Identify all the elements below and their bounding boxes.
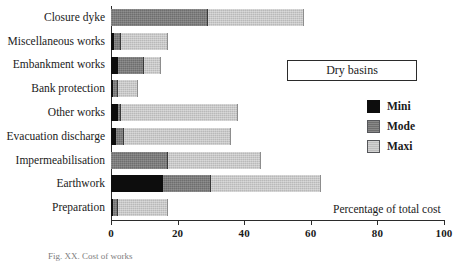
bar-segment-maxi: [121, 104, 238, 121]
legend-item-label: Maxi: [387, 140, 413, 152]
chart-title-label: Dry basins: [326, 63, 378, 78]
stacked-bar: [111, 175, 321, 192]
bar-segment-maxi: [208, 9, 305, 26]
stacked-bar: [111, 152, 261, 169]
category-label: Impermeabilisation: [16, 155, 105, 167]
bar-segment-maxi: [168, 152, 261, 169]
mini-swatch-icon: [367, 100, 380, 113]
bar-segment-mode: [111, 9, 208, 26]
bar-segment-mini: [111, 104, 118, 121]
x-axis-line: [111, 220, 445, 221]
x-axis-caption: Percentage of total cost: [333, 203, 441, 215]
bar-segment-maxi: [118, 80, 138, 97]
stacked-bar: [111, 128, 231, 145]
stacked-bar: [111, 104, 238, 121]
legend-item-label: Mode: [387, 120, 415, 132]
bar-segment-mini: [111, 175, 163, 192]
category-label: Earthwork: [56, 179, 105, 191]
x-tick-label: 80: [357, 227, 397, 239]
x-tick-label: 100: [424, 227, 462, 239]
category-label: Evacuation discharge: [7, 131, 105, 143]
chart-row: Closure dyke: [111, 6, 444, 30]
legend-item-label: Mini: [387, 100, 411, 112]
x-tick-label: 0: [91, 227, 131, 239]
x-tick: [111, 220, 112, 225]
x-tick: [311, 220, 312, 225]
bar-segment-mode: [163, 175, 211, 192]
chart-legend: MiniModeMaxi: [367, 96, 415, 156]
bar-segment-mode: [118, 57, 145, 74]
bar-segment-mode: [116, 128, 124, 145]
stacked-bar: [111, 57, 161, 74]
x-tick: [178, 220, 179, 225]
legend-item: Maxi: [367, 136, 415, 156]
stacked-bar: [111, 80, 138, 97]
legend-item: Mode: [367, 116, 415, 136]
x-tick-label: 40: [224, 227, 264, 239]
stacked-bar: [111, 199, 168, 216]
category-label: Other works: [48, 107, 105, 119]
x-tick: [444, 220, 445, 225]
stacked-bar: [111, 33, 168, 50]
bar-segment-maxi: [144, 57, 161, 74]
chart-row: Earthwork: [111, 172, 444, 196]
stacked-bar: [111, 9, 304, 26]
category-label: Preparation: [52, 202, 105, 214]
x-tick: [377, 220, 378, 225]
x-tick-label: 20: [158, 227, 198, 239]
x-tick: [244, 220, 245, 225]
bar-segment-maxi: [118, 199, 168, 216]
chart-title-box: Dry basins: [287, 60, 417, 81]
legend-item: Mini: [367, 96, 415, 116]
figure-caption: Fig. XX. Cost of works: [48, 251, 133, 261]
category-label: Embankment works: [13, 60, 105, 72]
bar-segment-mini: [111, 57, 118, 74]
maxi-swatch-icon: [367, 140, 380, 153]
bar-segment-maxi: [121, 33, 168, 50]
bar-segment-mode: [111, 152, 168, 169]
chart-row: Miscellaneous works: [111, 30, 444, 54]
category-label: Miscellaneous works: [8, 36, 105, 48]
mode-swatch-icon: [367, 120, 380, 133]
bar-segment-maxi: [124, 128, 231, 145]
x-tick-label: 60: [291, 227, 331, 239]
bar-segment-mode: [114, 33, 121, 50]
category-label: Bank protection: [31, 83, 105, 95]
bar-segment-maxi: [211, 175, 321, 192]
category-label: Closure dyke: [44, 12, 105, 24]
